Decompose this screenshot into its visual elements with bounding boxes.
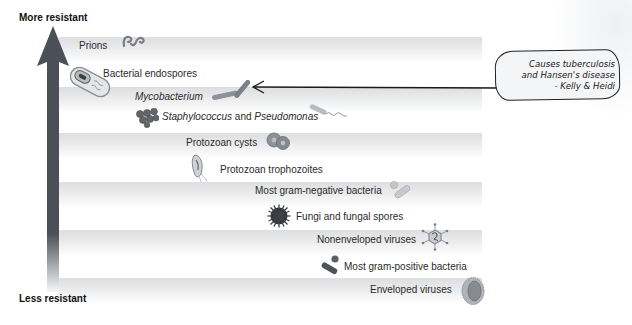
item-bacterial-endospores: Bacterial endospores xyxy=(103,68,197,79)
enveloped-virus-icon xyxy=(460,276,486,306)
item-enveloped-viruses: Enveloped viruses xyxy=(370,284,452,295)
item-protozoan-cysts: Protozoan cysts xyxy=(186,137,257,148)
gram-negative-icon xyxy=(388,180,412,200)
annotation-line-1: Causes tuberculosis xyxy=(503,59,615,70)
fungal-spore-icon xyxy=(266,203,292,229)
prion-icon xyxy=(121,34,149,48)
item-gram-negative-bacteria: Most gram-negative bacteria xyxy=(255,185,382,196)
trophozoite-icon xyxy=(189,152,211,182)
item-staphylococcus-pseudomonas: Staphylococcus and Pseudomonas xyxy=(162,111,318,122)
protozoan-cyst-icon xyxy=(265,132,293,150)
item-nonenveloped-viruses: Nonenveloped viruses xyxy=(317,234,416,245)
annotation-text: Causes tuberculosis and Hansen's disease… xyxy=(503,59,615,92)
mycobacterium-name: Mycobacterium xyxy=(135,91,203,102)
staphylococcus-icon xyxy=(135,108,159,128)
mycobacterium-icon xyxy=(210,80,250,102)
item-gram-positive-bacteria: Most gram-positive bacteria xyxy=(344,261,467,272)
item-mycobacterium: Mycobacterium xyxy=(135,91,203,102)
nonenveloped-virus-icon xyxy=(420,222,450,252)
more-resistant-label: More resistant xyxy=(19,12,87,23)
item-fungi-spores: Fungi and fungal spores xyxy=(296,211,403,222)
pseudomonas-icon xyxy=(308,104,350,122)
gram-positive-icon xyxy=(319,254,343,276)
band-5 xyxy=(59,230,482,256)
annotation-line-2: and Hansen's disease xyxy=(503,70,615,81)
callout-pointer-arrow-icon xyxy=(250,79,500,95)
conjunction: and xyxy=(232,111,254,122)
staphylococcus-name: Staphylococcus xyxy=(162,111,232,122)
item-protozoan-trophozoites: Protozoan trophozoites xyxy=(220,164,323,175)
item-prions: Prions xyxy=(79,40,107,51)
annotation-line-3: - Kelly & Heidi xyxy=(503,81,615,92)
less-resistant-label: Less resistant xyxy=(19,293,86,304)
